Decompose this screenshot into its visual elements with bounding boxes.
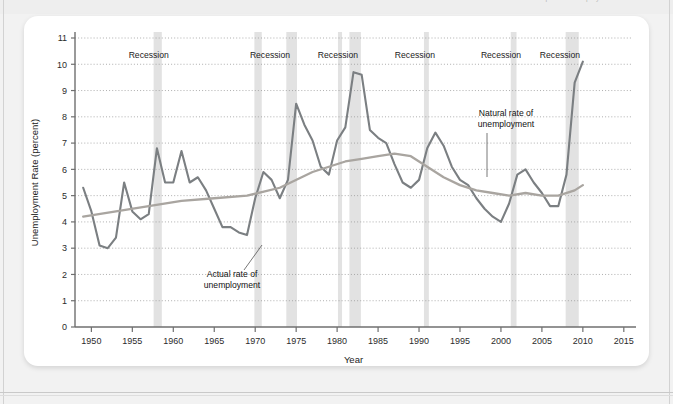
recession-band xyxy=(349,32,360,327)
recession-band xyxy=(338,32,342,327)
annotation-actual-line1: Actual rate of xyxy=(207,269,258,279)
y-tick-label-10: 10 xyxy=(57,60,67,70)
x-tick-label-1980: 1980 xyxy=(327,336,347,346)
annotation-actual-line2: unemployment xyxy=(204,280,261,290)
y-tick-label-9: 9 xyxy=(62,86,67,96)
cut-off-header-text: Chapter 8 Unemployment and Inflation xyxy=(532,0,659,1)
recession-label: Recession xyxy=(540,50,580,60)
unemployment-chart: 0123456789101119501955196019651970197519… xyxy=(24,16,649,366)
page-bottom-rule xyxy=(0,392,673,393)
y-tick-label-7: 7 xyxy=(62,138,67,148)
x-tick-label-2005: 2005 xyxy=(532,336,552,346)
x-tick-label-1965: 1965 xyxy=(204,336,224,346)
x-tick-label-1975: 1975 xyxy=(286,336,306,346)
recession-label: Recession xyxy=(318,50,358,60)
chart-svg: 0123456789101119501955196019651970197519… xyxy=(24,16,649,366)
y-tick-label-0: 0 xyxy=(62,322,67,332)
x-tick-label-2000: 2000 xyxy=(491,336,511,346)
recession-label: Recession xyxy=(129,50,169,60)
recession-label: Recession xyxy=(395,50,435,60)
cut-off-header-strip: Chapter 8 Unemployment and Inflation xyxy=(0,0,673,14)
recession-band xyxy=(154,32,162,327)
y-axis-title: Unemployment Rate (percent) xyxy=(29,119,40,246)
x-tick-label-1970: 1970 xyxy=(245,336,265,346)
figure-page: Chapter 8 Unemployment and Inflation 012… xyxy=(0,0,673,404)
x-tick-label-1990: 1990 xyxy=(409,336,429,346)
y-tick-label-11: 11 xyxy=(58,33,67,43)
x-tick-label-2010: 2010 xyxy=(573,336,593,346)
annotation-natural-line2: unemployment xyxy=(478,119,535,129)
page-left-rule xyxy=(3,0,4,404)
y-tick-label-1: 1 xyxy=(62,296,67,306)
annotation-natural-line1: Natural rate of xyxy=(479,108,534,118)
y-tick-label-8: 8 xyxy=(62,112,67,122)
recession-band xyxy=(424,32,429,327)
recession-label: Recession xyxy=(481,50,521,60)
x-tick-label-1960: 1960 xyxy=(163,336,183,346)
x-tick-label-1985: 1985 xyxy=(368,336,388,346)
x-axis-title: Year xyxy=(344,354,363,365)
page-bottom-rule-secondary xyxy=(0,395,673,396)
y-tick-label-2: 2 xyxy=(62,270,67,280)
x-tick-label-1950: 1950 xyxy=(81,336,101,346)
x-tick-label-1995: 1995 xyxy=(450,336,470,346)
y-tick-label-5: 5 xyxy=(62,191,67,201)
y-tick-label-6: 6 xyxy=(62,165,67,175)
recession-label: Recession xyxy=(250,50,290,60)
x-tick-label-1955: 1955 xyxy=(122,336,142,346)
x-tick-label-2015: 2015 xyxy=(614,336,634,346)
y-tick-label-4: 4 xyxy=(62,217,67,227)
y-tick-label-3: 3 xyxy=(62,243,67,253)
page-right-rule xyxy=(669,0,670,404)
